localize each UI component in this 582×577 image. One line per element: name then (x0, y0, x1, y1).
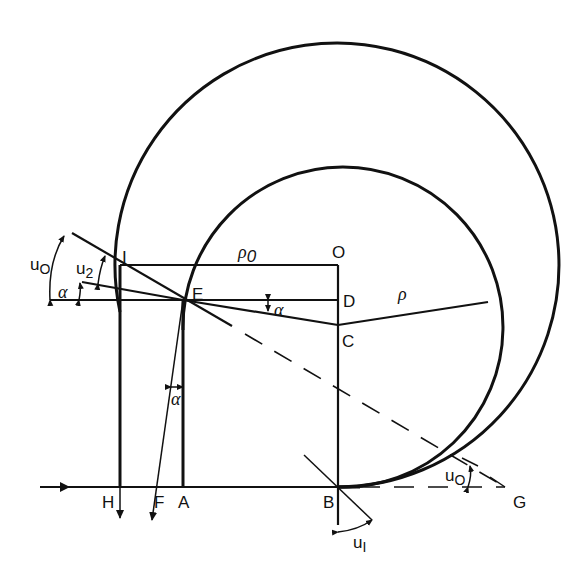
label-E: E (192, 285, 203, 304)
oblique-line-solid (72, 233, 232, 326)
u0-right-arc (468, 466, 471, 487)
oblique-line-dashed (245, 334, 505, 487)
label-F: F (154, 493, 164, 512)
radius-rho (338, 302, 488, 325)
alpha-ray (82, 282, 183, 300)
label-C: C (342, 332, 354, 351)
label-u2: u2 (76, 259, 93, 281)
label-alpha-left: α (58, 282, 68, 302)
label-rho0: ρ0 (237, 242, 257, 266)
u1-arc (338, 520, 372, 532)
inner-circle (183, 167, 503, 487)
label-G: G (513, 493, 526, 512)
u2-arc (98, 256, 105, 284)
segment-EC (183, 300, 338, 325)
label-u0-right: uO (445, 466, 465, 488)
label-I: I (122, 248, 127, 267)
label-A: A (178, 493, 190, 512)
label-u1: uI (353, 533, 366, 555)
u0-right-tick (462, 458, 478, 466)
label-H: H (102, 493, 114, 512)
label-O: O (332, 243, 345, 262)
baseline-arrow-icon (60, 482, 70, 492)
label-D: D (343, 292, 355, 311)
alpha-left-arc (79, 283, 80, 300)
label-u0-left: uO (30, 255, 50, 277)
label-rho: ρ (397, 284, 407, 304)
label-alpha-ED: α (274, 300, 284, 320)
arrow-G-head (490, 477, 505, 487)
label-alpha-vertical: α (171, 389, 181, 409)
geometry-diagram: O D C E I H F A B G ρ0 ρ uO u2 α α α uO … (0, 0, 582, 577)
label-B: B (323, 493, 334, 512)
